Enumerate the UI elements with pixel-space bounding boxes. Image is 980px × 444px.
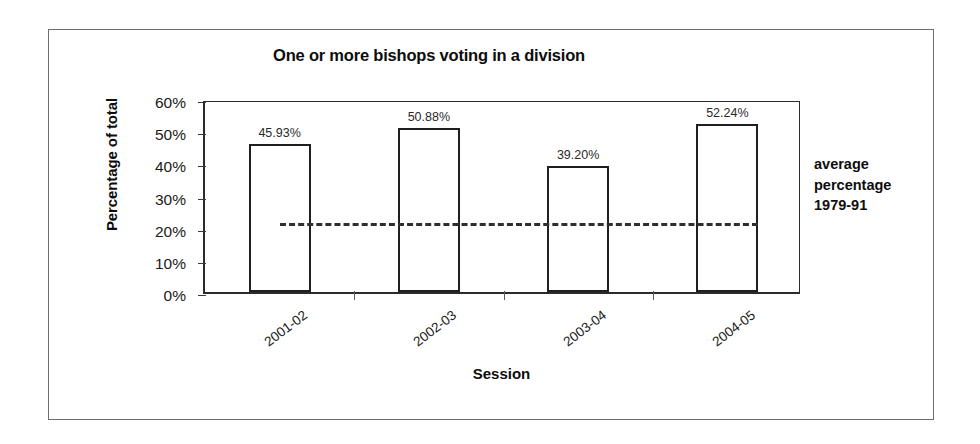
y-axis-title: Percentage of total [103,65,120,265]
y-tick-label: 40% [155,158,186,176]
y-tick: 50% [198,134,206,135]
x-tick-label: 2004-05 [709,308,758,350]
y-tick-label: 30% [155,190,186,208]
x-tick-label: 2002-03 [411,308,460,350]
x-tick-label: 2001-02 [262,308,311,350]
average-annotation-line-3: 1979-91 [814,195,891,216]
y-tick-label: 20% [155,222,186,240]
y-tick: 40% [198,166,206,167]
y-tick: 0% [198,295,206,296]
bar-value-label: 52.24% [706,106,748,120]
average-reference-line [280,223,759,226]
x-tick [653,291,654,300]
x-tick [504,291,505,300]
x-axis-title: Session [203,365,800,382]
bar[interactable]: 39.20% [547,166,609,292]
average-annotation-line-1: average [814,154,891,175]
average-annotation-line-2: percentage [814,175,891,196]
bar[interactable]: 45.93% [249,144,311,292]
y-tick-label: 60% [155,94,186,112]
y-tick: 30% [198,199,206,200]
plot-area: 60%50%40%30%20%10%0% 45.93%50.88%39.20%5… [203,101,800,294]
y-tick: 60% [198,102,206,103]
figure-frame: One or more bishops voting in a division… [48,29,934,420]
x-tick-label: 2003-04 [560,308,609,350]
bar-value-label: 39.20% [557,148,599,162]
y-tick-label: 0% [164,287,186,305]
y-tick-label: 10% [155,254,186,272]
bar-value-label: 50.88% [408,110,450,124]
chart-title: One or more bishops voting in a division [49,46,809,65]
bar-value-label: 45.93% [258,126,300,140]
y-tick-label: 50% [155,126,186,144]
average-annotation: average percentage 1979-91 [814,154,891,216]
x-tick [354,291,355,300]
y-tick: 20% [198,231,206,232]
bar[interactable]: 50.88% [398,128,460,292]
bar[interactable]: 52.24% [696,124,758,292]
y-tick: 10% [198,263,206,264]
